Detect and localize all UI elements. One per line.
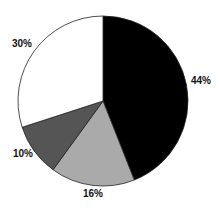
pie-chart xyxy=(0,0,219,210)
label-slice-d: 30% xyxy=(12,38,32,49)
pie-slices xyxy=(18,16,188,186)
label-slice-c: 10% xyxy=(13,148,33,159)
label-slice-b: 16% xyxy=(83,188,103,199)
label-slice-a: 44% xyxy=(191,75,211,86)
